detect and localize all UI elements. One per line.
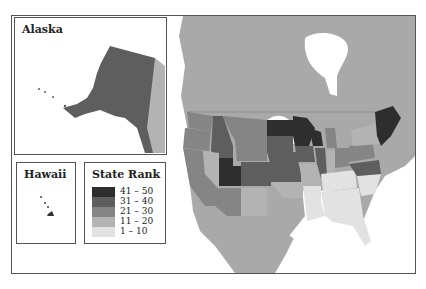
- hawaii-map: [17, 163, 75, 243]
- alaska-map: [15, 18, 166, 154]
- legend-label: 41 – 50: [120, 186, 153, 196]
- legend-label: 11 – 20: [120, 216, 153, 226]
- alaska-inset: Alaska: [14, 17, 167, 155]
- legend-swatch: [92, 227, 115, 237]
- legend-swatch: [92, 187, 115, 197]
- legend-label: 1 – 10: [120, 226, 147, 236]
- legend-item: 1 – 10: [92, 227, 192, 237]
- legend: State Rank 41 – 50 31 – 40 21 – 30 11 – …: [84, 162, 166, 244]
- legend-swatch: [92, 197, 115, 207]
- legend-label: 21 – 30: [120, 206, 153, 216]
- legend-swatch: [92, 217, 115, 227]
- legend-label: 31 – 40: [120, 196, 153, 206]
- legend-swatch: [92, 207, 115, 217]
- hawaii-inset: Hawaii: [16, 162, 76, 244]
- us-choropleth-map: [175, 16, 415, 273]
- legend-title: State Rank: [92, 168, 160, 181]
- main-map-svg: [175, 16, 415, 273]
